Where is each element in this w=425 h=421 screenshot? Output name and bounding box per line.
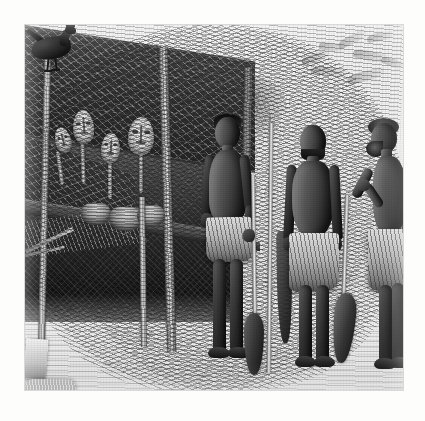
fowl-label: black chicken pecking on the ground [0, 0, 1, 1]
figure-center-label: Older man [0, 0, 1, 1]
scene-setting: open-sided thatched shelter in a village… [0, 0, 1, 1]
figure-left-label: Young man with spear [0, 0, 1, 1]
bowl-label: large footed wooden bowl / mortar in sha… [0, 0, 1, 1]
artwork-caption [0, 0, 1, 1]
artwork-title: Three men standing before a thatched she… [0, 0, 1, 1]
paper-grain [25, 25, 403, 390]
roof-label: thatched pitched roof [0, 0, 1, 1]
engraving-page: Three men standing before a thatched she… [0, 0, 425, 421]
figure-right-label: Elder in profile [0, 0, 1, 1]
engraving-plate [25, 25, 403, 390]
